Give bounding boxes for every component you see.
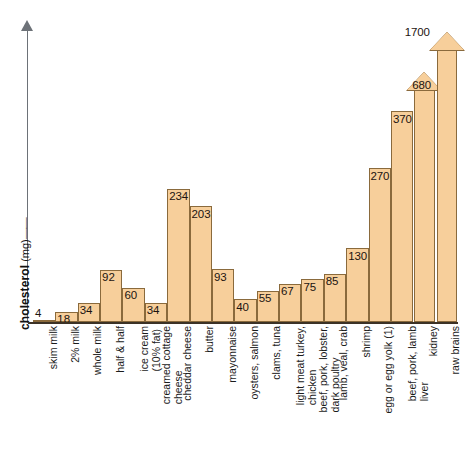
bar-value-label: 4 [35,307,41,319]
bar-body [391,111,413,322]
bar-value-label: 270 [371,170,390,182]
bar-value-label: 34 [80,304,93,316]
x-label-ice-cream-10-fat-: ice cream(10% fat) [139,326,162,372]
bar-value-label: 370 [393,113,412,125]
x-label-light-meat-turkey-chicken: light meat turkey,chicken [295,326,318,405]
bar-value-label: 55 [259,292,272,304]
bar-value-label: 40 [236,301,249,313]
x-label-egg-or-egg-yolk-1-: egg or egg yolk (1) [383,326,395,414]
bar-oysters-salmon: 40 [234,0,256,324]
x-label-clams-tuna: clams, tuna [271,326,283,380]
bar-value-label: 85 [326,275,339,287]
bar-beef-pork-lamb-liver: 370 [391,0,413,324]
bar-half-half: 92 [100,0,122,324]
bar-value-label: 92 [102,271,115,283]
x-label-cheddar-cheese: cheddar cheese [182,326,194,401]
bar-ice-cream-10-fat-: 60 [122,0,144,324]
bar-creamed-cottage-cheese: 34 [145,0,167,324]
bar-beef-pork-lobster-dark-poultry: 75 [301,0,323,324]
bar-butter: 203 [190,0,212,324]
bar-value-label: 1700 [405,26,430,38]
bar-body [369,168,391,322]
bar-light-meat-turkey-chicken: 67 [279,0,301,324]
x-label-kidney: kidney [428,326,440,356]
bar-cheddar-cheese: 234 [167,0,189,324]
bar-value-label: 60 [124,289,137,301]
bar-skim-milk: 4 [33,0,55,324]
cholesterol-bar-chart: cholesterol (mg)—— 418349260342342039340… [0,0,474,461]
x-label-half-half: half & half [115,326,127,373]
x-label-lamb-veal-crab: lamb, veal, crab [338,326,350,400]
y-axis-title-unit: (mg) [19,239,31,265]
x-label-butter: butter [204,326,216,353]
x-label-mayonnaise: mayonnaise [227,326,239,383]
bar-lamb-veal-crab: 85 [324,0,346,324]
bar-shrimp: 130 [346,0,368,324]
bar-value-label: 67 [281,285,294,297]
bar-body [414,90,434,322]
x-axis-baseline [28,322,458,324]
x-label-skim-milk: skim milk [48,326,60,369]
bar-value-label: 130 [348,250,367,262]
x-label-2-milk: 2% milk [70,326,82,363]
x-label-whole-milk: whole milk [92,326,104,375]
bar-egg-or-egg-yolk-1-: 270 [369,0,391,324]
bar-whole-milk: 34 [78,0,100,324]
bar-value-label: 34 [147,304,160,316]
bar-value-label: 203 [192,208,211,220]
bar-value-label: 93 [214,271,227,283]
bar-2-milk: 18 [55,0,77,324]
bar-clams-tuna: 55 [257,0,279,324]
bar-value-label: 234 [169,190,188,202]
x-axis-labels: skim milk2% milkwhole milkhalf & halfice… [33,326,458,461]
plot-area: 4183492603423420393405567758513027037068… [33,0,458,324]
y-axis-title: cholesterol (mg)—— [18,140,32,330]
x-label-raw-brains: raw brains [450,326,462,374]
x-label-oysters-salmon: oysters, salmon [249,326,261,400]
bar-value-label: 75 [303,281,316,293]
x-label-shrimp: shrimp [361,326,373,358]
bar-body [190,206,212,322]
bar-body [437,50,457,322]
bar-mayonnaise: 93 [212,0,234,324]
bar-raw-brains: 1700 [436,0,458,324]
y-axis-title-bold: cholesterol [18,265,32,330]
y-axis-title-dash: —— [19,218,31,239]
bar-body [167,189,189,322]
bar-value-label: 680 [412,79,431,91]
